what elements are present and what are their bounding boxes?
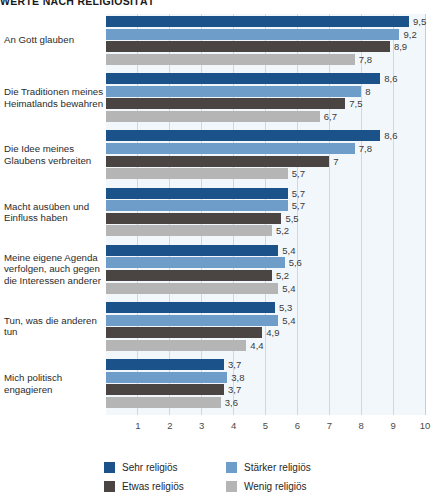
bar-group: 5,75,75,55,2 xyxy=(106,188,425,237)
bar-value-label: 5,7 xyxy=(288,188,305,199)
bar-value-label: 5,4 xyxy=(278,283,295,294)
bar-value-label: 7,8 xyxy=(355,54,372,65)
bar-value-label: 5,4 xyxy=(278,245,295,256)
bar-value-label: 3,6 xyxy=(221,397,238,408)
legend-swatch-icon xyxy=(104,462,115,473)
bar[interactable] xyxy=(106,200,288,211)
bar[interactable] xyxy=(106,327,262,338)
x-axis-tick-label: 7 xyxy=(327,420,332,431)
bar[interactable] xyxy=(106,168,288,179)
legend-swatch-icon xyxy=(226,481,237,492)
bar[interactable] xyxy=(106,340,246,351)
x-axis-tick-label: 10 xyxy=(420,420,431,431)
legend-label: Etwas religiös xyxy=(122,481,184,492)
legend-row: Etwas religiös Wenig religiös xyxy=(104,477,434,496)
x-axis-tick-label: 3 xyxy=(199,420,204,431)
bar-group: 8,687,56,7 xyxy=(106,73,425,122)
legend-item-etwas-religioes[interactable]: Etwas religiös xyxy=(104,477,184,496)
bar-value-label: 8 xyxy=(361,86,370,97)
bar-value-label: 3,8 xyxy=(227,372,244,383)
bar[interactable] xyxy=(106,98,345,109)
bar-value-label: 5,5 xyxy=(281,213,298,224)
x-axis-tick-label: 5 xyxy=(263,420,268,431)
category-label: Die Idee meines Glaubens verbreiten xyxy=(4,143,104,166)
bar[interactable] xyxy=(106,397,221,408)
bar-group: 3,73,83,73,6 xyxy=(106,359,425,408)
bar-value-label: 4,4 xyxy=(246,340,263,351)
x-axis-tick-label: 8 xyxy=(359,420,364,431)
category-label: Meine eigene Agenda verfolgen, auch gege… xyxy=(4,252,104,287)
x-axis-tick-label: 9 xyxy=(390,420,395,431)
category-label: An Gott glauben xyxy=(4,34,104,46)
bar-value-label: 5,2 xyxy=(272,270,289,281)
bar-value-label: 7,5 xyxy=(345,98,362,109)
bar[interactable] xyxy=(106,73,380,84)
bar[interactable] xyxy=(106,143,355,154)
bar[interactable] xyxy=(106,283,278,294)
bar[interactable] xyxy=(106,372,227,383)
bar-group: 5,35,44,94,4 xyxy=(106,302,425,351)
bar-group: 8,67,875,7 xyxy=(106,130,425,179)
bar[interactable] xyxy=(106,270,272,281)
bar-value-label: 7 xyxy=(329,156,338,167)
x-axis-tick-label: 6 xyxy=(295,420,300,431)
bar-value-label: 5,2 xyxy=(272,225,289,236)
legend-swatch-icon xyxy=(226,462,237,473)
x-axis-tick-label: 2 xyxy=(167,420,172,431)
x-axis-tick-label: 1 xyxy=(135,420,140,431)
category-label: Mich politisch engagieren xyxy=(4,372,104,395)
bar[interactable] xyxy=(106,41,390,52)
bar-value-label: 5,6 xyxy=(285,257,302,268)
bar[interactable] xyxy=(106,130,380,141)
bar-value-label: 5,3 xyxy=(275,302,292,313)
bar-group: 9,59,28,97,8 xyxy=(106,16,425,65)
bar[interactable] xyxy=(106,213,281,224)
chart-legend: Sehr religiös Stärker religiös Etwas rel… xyxy=(104,458,434,496)
page-title: WERTE NACH RELIGIOSITÄT xyxy=(0,0,154,7)
category-label: Die Traditionen meines Heimatlands bewah… xyxy=(4,86,104,109)
bar[interactable] xyxy=(106,111,320,122)
bar-value-label: 9,5 xyxy=(409,16,426,27)
category-label: Tun, was die anderen tun xyxy=(4,315,104,338)
legend-item-sehr-religioes[interactable]: Sehr religiös xyxy=(104,458,178,477)
bar[interactable] xyxy=(106,359,224,370)
bar-value-label: 8,6 xyxy=(380,73,397,84)
category-label: Macht ausüben und Einfluss haben xyxy=(4,201,104,224)
bar-value-label: 8,6 xyxy=(380,130,397,141)
bar[interactable] xyxy=(106,156,329,167)
bar-value-label: 9,2 xyxy=(399,29,416,40)
bar-value-label: 4,9 xyxy=(262,327,279,338)
bar[interactable] xyxy=(106,315,278,326)
x-axis-tick-label: 4 xyxy=(231,420,236,431)
legend-item-staerker-religioes[interactable]: Stärker religiös xyxy=(226,458,311,477)
bar[interactable] xyxy=(106,16,409,27)
bar-value-label: 7,8 xyxy=(355,143,372,154)
bar-value-label: 5,4 xyxy=(278,315,295,326)
legend-row: Sehr religiös Stärker religiös xyxy=(104,458,434,477)
bar[interactable] xyxy=(106,86,361,97)
bar-value-label: 8,9 xyxy=(390,41,407,52)
bar[interactable] xyxy=(106,302,275,313)
bar-value-label: 3,7 xyxy=(224,359,241,370)
legend-label: Stärker religiös xyxy=(244,462,311,473)
bar-value-label: 5,7 xyxy=(288,200,305,211)
bar-group: 5,45,65,25,4 xyxy=(106,245,425,294)
bar[interactable] xyxy=(106,188,288,199)
bar[interactable] xyxy=(106,29,399,40)
bar[interactable] xyxy=(106,54,355,65)
bar-value-label: 6,7 xyxy=(320,111,337,122)
x-axis: 12345678910 xyxy=(106,416,425,432)
plot-area: 9,59,28,97,88,687,56,78,67,875,75,75,75,… xyxy=(106,14,425,415)
legend-swatch-icon xyxy=(104,481,115,492)
bar[interactable] xyxy=(106,245,278,256)
legend-label: Sehr religiös xyxy=(122,462,178,473)
legend-item-wenig-religioes[interactable]: Wenig religiös xyxy=(226,477,307,496)
bar[interactable] xyxy=(106,225,272,236)
legend-label: Wenig religiös xyxy=(244,481,307,492)
bar[interactable] xyxy=(106,257,285,268)
bar[interactable] xyxy=(106,384,224,395)
bar-value-label: 5,7 xyxy=(288,168,305,179)
bar-value-label: 3,7 xyxy=(224,384,241,395)
